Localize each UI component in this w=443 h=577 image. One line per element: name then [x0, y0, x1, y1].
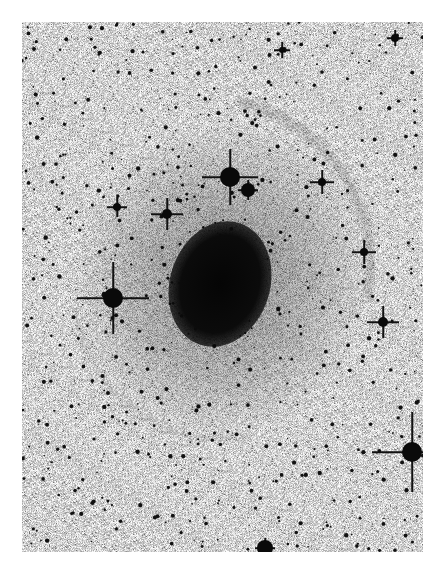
bright-star [279, 47, 285, 53]
bright-star [113, 203, 121, 211]
bright-star [162, 209, 172, 219]
bright-star [402, 442, 422, 462]
bright-star [220, 167, 240, 187]
bright-star [103, 288, 123, 308]
bright-star [241, 183, 255, 197]
bright-star [360, 248, 368, 256]
bright-star [257, 540, 273, 552]
bright-star [318, 178, 326, 186]
galaxy-image [22, 22, 423, 552]
bright-star [378, 317, 388, 327]
bright-star [391, 34, 399, 42]
